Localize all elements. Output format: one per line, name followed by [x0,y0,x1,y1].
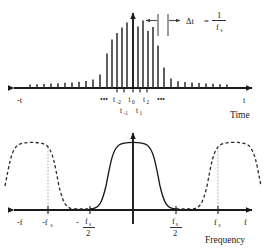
delta-t-denominator-subscript: s [221,27,223,33]
frequency-axis-caption: Frequency [205,235,245,245]
time-axis-left-label: -t [17,95,23,105]
delta-t-denominator: f [216,22,219,32]
delta-t-annotation: Δt = 1 f s [186,10,226,33]
label-t-1-sub: 1 [140,110,143,116]
frequency-axis-right-label: f [244,217,247,227]
bottom-panel-frequency-domain: -f f Frequency -f s - f s 2 f s 2 [5,133,261,245]
ticklabel-pos-fs-half-base: f [172,216,175,226]
frequency-axis-left-label: -f [17,217,23,227]
delta-t-numerator: 1 [217,10,221,20]
ticklabel-neg-fs-sub: s [51,222,53,228]
label-t-minus-1-sub: -1 [124,110,129,116]
ticklabel-neg-fs-half: - f s 2 [76,216,95,238]
ticklabel-neg-fs-half-base: f [85,216,88,226]
top-panel-time-domain: Δt = 1 f s -t t Time ••• t -2 t 0 t 2 ••… [14,10,252,121]
label-t-0-sub: 0 [132,99,135,105]
delta-t-symbol: Δt [186,16,194,26]
ticklabel-pos-fs: f s [214,217,221,228]
ticklabel-neg-fs-half-sign: - [76,217,79,227]
ticklabel-pos-fs-half-den: 2 [173,228,177,238]
replica-spectrum-negative-curve [5,142,90,209]
ticklabel-neg-fs: -f s [42,217,53,228]
ticklabel-pos-fs-sub: s [219,222,221,228]
ticklabel-pos-fs-half-sub: s [176,221,178,227]
time-sample-labels-row1: ••• t -2 t 0 t 2 ••• [100,95,165,105]
ticklabel-pos-fs-base: f [214,217,217,227]
ellipsis-left: ••• [100,95,108,104]
sampling-theorem-figure: Δt = 1 f s -t t Time ••• t -2 t 0 t 2 ••… [0,0,266,248]
ellipsis-right: ••• [157,95,165,104]
ticklabel-neg-fs-base: -f [42,217,48,227]
ticklabel-neg-fs-half-sub: s [89,221,91,227]
delta-t-equals: = [204,16,209,26]
time-axis-caption: Time [230,110,250,120]
time-sample-labels-row2: t -1 t 1 [120,106,143,116]
time-axis-right-label: t [243,95,246,105]
impulse-train [30,21,227,89]
replica-spectrum-positive-curve [176,142,261,209]
ticklabel-pos-fs-half: f s 2 [170,216,182,238]
delta-t-indicator [146,14,180,36]
ticklabel-neg-fs-half-den: 2 [86,228,90,238]
label-t-2-sub: 2 [147,99,150,105]
label-t-minus-2-sub: -2 [117,99,122,105]
figure-canvas: Δt = 1 f s -t t Time ••• t -2 t 0 t 2 ••… [0,0,266,248]
